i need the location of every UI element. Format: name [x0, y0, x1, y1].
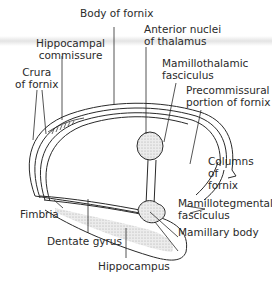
label-hippocampus: Hippocampus: [98, 260, 170, 272]
label-dentate-gyrus: Dentate gyrus: [47, 235, 122, 247]
label-columns-of-fornix: Columns of fornix: [208, 155, 254, 191]
label-precommissural: Precommissural portion of fornix: [186, 84, 270, 108]
label-anterior-nuclei: Anterior nuclei of thalamus: [144, 23, 221, 47]
label-crura-of-fornix: Crura of fornix: [15, 66, 59, 90]
label-body-of-fornix: Body of fornix: [80, 7, 153, 19]
label-mamillary-body: Mamillary body: [178, 226, 259, 238]
fornix-diagram: Body of fornix Anterior nuclei of thalam…: [0, 0, 272, 281]
label-fimbria: Fimbria: [20, 208, 59, 220]
mamillary-body-shape: [138, 201, 165, 223]
fornix-arch-2: [35, 108, 227, 198]
label-mamillothalamic-fasciculus: Mamillothalamic fasciculus: [162, 57, 248, 81]
label-hippocampal-commissure: Hippocampal commissure: [36, 37, 105, 61]
label-mamillotegmental-fasciculus: Mamillotegmental fasciculus: [178, 197, 272, 221]
